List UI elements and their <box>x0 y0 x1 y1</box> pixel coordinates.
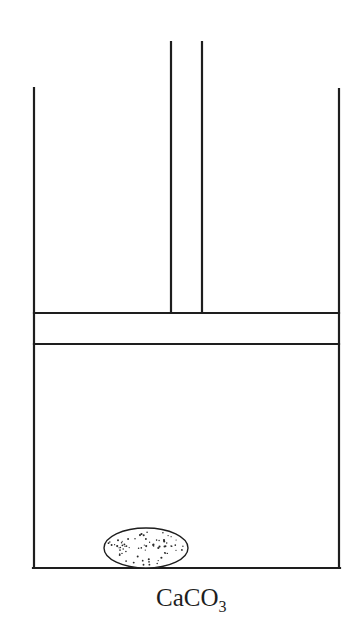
diagram-canvas <box>0 0 358 636</box>
label-formula: CaCO <box>156 584 219 611</box>
caco3-label: CaCO3 <box>156 584 227 616</box>
piston-cylinder-diagram: CaCO3 <box>0 0 358 636</box>
label-subscript: 3 <box>219 598 227 615</box>
caco3-sample <box>104 528 188 568</box>
